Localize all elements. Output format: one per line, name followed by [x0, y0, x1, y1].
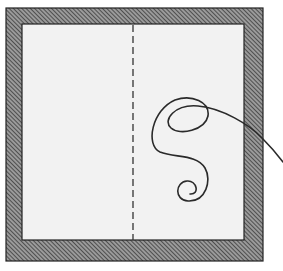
illustration [0, 0, 283, 271]
